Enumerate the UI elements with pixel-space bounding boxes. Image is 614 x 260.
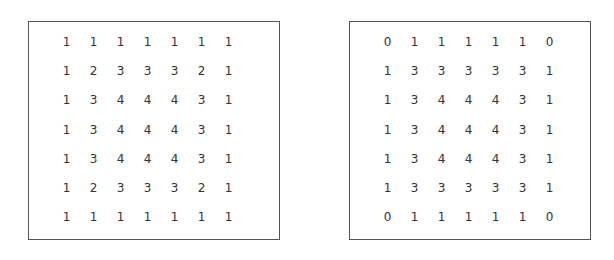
grid-cell: 1 [80,205,107,234]
grid-cell: 1 [80,30,107,59]
grid-cell: 3 [401,118,428,147]
grid-cell: 1 [455,30,482,59]
grid-cell: 4 [134,147,161,176]
grid-cell: 1 [536,59,563,88]
grid-cell: 4 [107,147,134,176]
grid-cell: 3 [80,88,107,117]
grid-cell: 1 [536,118,563,147]
grid-cell: 3 [509,118,536,147]
grid-cell: 1 [215,59,242,88]
grid-cell: 1 [374,59,401,88]
grid-cell: 3 [134,176,161,205]
grid-cell: 3 [401,176,428,205]
grid-cell: 0 [374,205,401,234]
grid-cell: 3 [509,59,536,88]
grid-cell: 4 [161,147,188,176]
grid-cell: 2 [188,59,215,88]
grid-cell: 1 [428,205,455,234]
left-number-grid: 1111111123332113444311344431134443112333… [53,30,242,234]
grid-cell: 1 [482,30,509,59]
grid-cell: 3 [188,118,215,147]
grid-cell: 1 [509,205,536,234]
grid-cell: 3 [509,176,536,205]
grid-cell: 1 [374,88,401,117]
grid-cell: 1 [107,205,134,234]
grid-cell: 4 [107,88,134,117]
grid-cell: 3 [80,147,107,176]
grid-cell: 3 [428,176,455,205]
grid-cell: 4 [428,118,455,147]
grid-cell: 1 [536,147,563,176]
grid-cell: 1 [401,205,428,234]
grid-cell: 4 [455,88,482,117]
grid-cell: 1 [161,30,188,59]
grid-cell: 1 [374,118,401,147]
grid-cell: 4 [134,88,161,117]
grid-cell: 1 [401,30,428,59]
grid-cell: 1 [53,118,80,147]
grid-cell: 3 [161,176,188,205]
grid-cell: 1 [536,88,563,117]
grid-cell: 1 [509,30,536,59]
grid-cell: 0 [374,30,401,59]
grid-cell: 1 [215,118,242,147]
grid-cell: 1 [53,176,80,205]
grid-cell: 3 [107,176,134,205]
grid-cell: 3 [107,59,134,88]
grid-cell: 4 [482,147,509,176]
grid-cell: 1 [161,205,188,234]
grid-cell: 0 [536,30,563,59]
grid-cell: 1 [53,205,80,234]
grid-cell: 1 [107,30,134,59]
grid-cell: 3 [482,176,509,205]
grid-cell: 1 [188,205,215,234]
grid-cell: 1 [53,147,80,176]
grid-cell: 1 [134,205,161,234]
grid-cell: 3 [80,118,107,147]
grid-cell: 1 [134,30,161,59]
grid-cell: 2 [188,176,215,205]
grid-cell: 3 [401,147,428,176]
grid-cell: 3 [428,59,455,88]
left-number-grid-box: 1111111123332113444311344431134443112333… [28,21,280,240]
grid-cell: 3 [401,59,428,88]
grid-cell: 1 [53,59,80,88]
grid-cell: 1 [215,30,242,59]
grid-cell: 1 [482,205,509,234]
grid-cell: 1 [215,88,242,117]
grid-cell: 4 [482,88,509,117]
grid-cell: 1 [428,30,455,59]
grid-cell: 4 [428,88,455,117]
grid-cell: 1 [215,205,242,234]
grid-cell: 4 [455,147,482,176]
grid-cell: 1 [455,205,482,234]
grid-cell: 3 [161,59,188,88]
grid-cell: 1 [188,30,215,59]
right-number-grid: 0111110133333113444311344431134443113333… [374,30,563,234]
grid-cell: 3 [401,88,428,117]
grid-cell: 3 [188,147,215,176]
grid-cell: 1 [215,176,242,205]
grid-cell: 4 [134,118,161,147]
grid-cell: 3 [509,147,536,176]
grid-cell: 4 [455,118,482,147]
grid-cell: 3 [134,59,161,88]
right-number-grid-box: 0111110133333113444311344431134443113333… [349,21,591,240]
grid-cell: 3 [188,88,215,117]
grid-cell: 4 [428,147,455,176]
grid-cell: 1 [53,88,80,117]
grid-cell: 1 [374,147,401,176]
grid-cell: 2 [80,176,107,205]
grid-cell: 3 [509,88,536,117]
grid-cell: 3 [455,176,482,205]
grid-cell: 4 [107,118,134,147]
grid-cell: 0 [536,205,563,234]
grid-cell: 1 [53,30,80,59]
grid-cell: 1 [215,147,242,176]
grid-cell: 4 [482,118,509,147]
grid-cell: 2 [80,59,107,88]
grid-cell: 3 [455,59,482,88]
grid-cell: 4 [161,88,188,117]
grid-cell: 1 [374,176,401,205]
grid-cell: 3 [482,59,509,88]
